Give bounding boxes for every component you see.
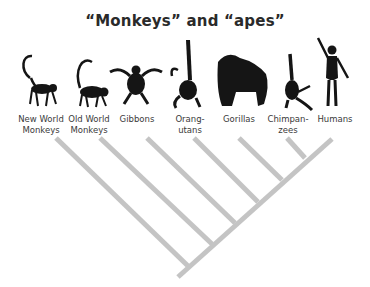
- branch-old-world-monkeys: [100, 138, 212, 244]
- branch-gorillas: [239, 138, 282, 180]
- branch-chimpanzees: [287, 138, 305, 158]
- tree-trunk: [178, 139, 332, 277]
- phylogenetic-tree: [0, 0, 370, 287]
- branch-gibbons: [147, 138, 235, 223]
